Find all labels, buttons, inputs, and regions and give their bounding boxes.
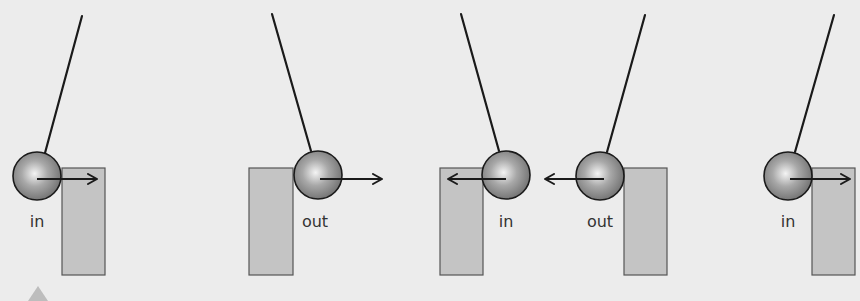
wall-block	[62, 168, 105, 275]
direction-label: out	[302, 212, 328, 231]
wall-block	[812, 168, 855, 275]
pendulum-ball	[482, 151, 530, 199]
wall-block	[249, 168, 293, 275]
pendulum-diagram: inoutinoutin	[0, 0, 860, 301]
pendulum-ball	[294, 151, 342, 199]
pendulum-ball	[764, 152, 812, 200]
direction-label: out	[587, 212, 613, 231]
pendulum-ball	[13, 152, 61, 200]
wall-block	[440, 168, 483, 275]
direction-label: in	[30, 212, 45, 231]
direction-label: in	[781, 212, 796, 231]
background	[0, 0, 860, 301]
diagram-canvas: inoutinoutin	[0, 0, 860, 301]
direction-label: in	[499, 212, 514, 231]
wall-block	[624, 168, 667, 275]
pendulum-ball	[576, 152, 624, 200]
